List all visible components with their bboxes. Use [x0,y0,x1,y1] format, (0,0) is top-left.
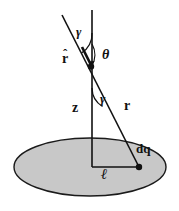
ell-label: ℓ [101,167,107,182]
figure-container: γ θ ˆ r γ z r dq ℓ [0,0,179,211]
field-point-dot [88,63,94,69]
physics-diagram-canvas [0,0,179,211]
theta-label: θ [102,48,109,62]
gamma-mid-label: γ [100,92,105,105]
gamma-top-label: γ [76,25,81,38]
r-hat-accent: ˆ [63,47,67,60]
charge-element-dot [136,164,142,170]
z-label: z [72,101,78,115]
r-label: r [124,99,130,113]
dq-label: dq [136,142,150,155]
r-hat-label: ˆ r [62,52,68,66]
